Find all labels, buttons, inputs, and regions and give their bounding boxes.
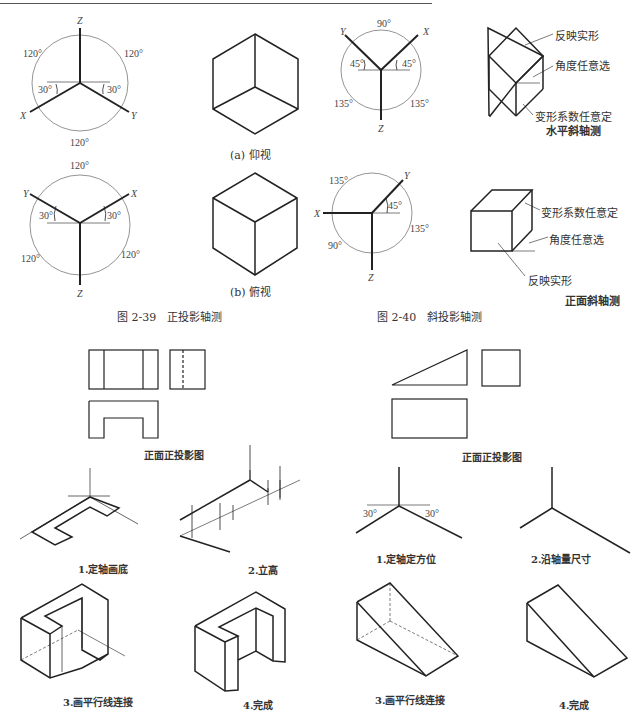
left-step4-caption: 4.完成 — [243, 697, 273, 712]
angle-label: 120° — [21, 253, 40, 264]
axis-y-label: Y — [131, 110, 137, 121]
isometric-axes-lower — [30, 175, 130, 285]
axis-y-label: Y — [23, 188, 29, 199]
angle-label: 120° — [70, 160, 89, 171]
right-step1-axes — [356, 467, 462, 538]
note-true-shape: 反映实形 — [555, 27, 599, 43]
angle-label: 90° — [328, 240, 342, 251]
left-step3-drawing — [21, 584, 125, 678]
angle-label: 45° — [350, 58, 364, 69]
angle-label: 90° — [377, 18, 391, 29]
left-step1-caption: 1.定轴画底 — [78, 561, 128, 576]
right-step4-caption: 4.完成 — [559, 697, 589, 712]
angle-label: 30° — [38, 84, 52, 95]
right-step2-caption: 2.沿轴量尺寸 — [531, 551, 591, 566]
angle-label: 135° — [334, 98, 353, 109]
right-step3-drawing — [357, 583, 458, 676]
axis-z-label: Z — [368, 272, 374, 283]
axis-x-label: X — [423, 26, 429, 37]
note-angle: 角度任意选 — [549, 231, 604, 247]
cube-bottom-view — [213, 34, 298, 134]
subcaption-b: (b) 俯视 — [230, 283, 271, 299]
right-step2-axes — [520, 467, 630, 553]
isometric-axes-upper — [30, 28, 129, 131]
left-projection-caption: 正面正投影图 — [144, 447, 204, 462]
angle-label: 120° — [23, 48, 42, 59]
cube-top-view — [213, 173, 297, 275]
oblique-axes-lower — [323, 173, 412, 270]
angle-label: 45° — [388, 200, 402, 211]
angle-label: 45° — [402, 58, 416, 69]
note-true-shape: 反映实形 — [528, 272, 572, 288]
left-orthographic-views — [89, 350, 205, 438]
left-step2-caption: 2.立高 — [248, 562, 278, 577]
angle-label: 30° — [39, 210, 53, 221]
note-angle: 角度任意选 — [555, 57, 610, 73]
angle-label: 30° — [107, 84, 121, 95]
axis-z-label: Z — [77, 15, 83, 26]
angle-label: 135° — [410, 223, 429, 234]
angle-label: 120° — [121, 249, 140, 260]
right-step4-drawing — [527, 585, 627, 677]
right-step3-caption: 3.画平行线连接 — [375, 692, 445, 707]
left-step3-caption: 3.画平行线连接 — [63, 694, 133, 709]
front-oblique-cube — [471, 190, 548, 276]
angle-label: 30° — [107, 210, 121, 221]
right-projection-caption: 正面正投影图 — [462, 449, 522, 464]
axis-y-label: Y — [340, 26, 346, 37]
oblique-axes-upper — [341, 30, 421, 120]
note-front-oblique: 正面斜轴测 — [565, 292, 620, 308]
left-step4-drawing — [195, 592, 285, 691]
figure-caption-2-39: 图 2-39 正投影轴测 — [117, 308, 222, 324]
axis-x-label: X — [314, 208, 320, 219]
axis-y-label: Y — [404, 170, 410, 181]
note-horizontal-oblique: 水平斜轴测 — [546, 122, 601, 138]
axis-x-label: X — [131, 188, 137, 199]
angle-label: 120° — [124, 48, 143, 59]
note-deformation: 变形系数任意定 — [541, 204, 618, 220]
right-step1-caption: 1.定轴定方位 — [376, 551, 436, 566]
left-step1-drawing — [20, 468, 138, 545]
figure-caption-2-40: 图 2-40 斜投影轴测 — [377, 308, 482, 324]
right-orthographic-views — [392, 350, 520, 438]
axis-x-label: X — [20, 110, 26, 121]
axis-z-label: Z — [77, 288, 83, 299]
angle-label: 120° — [70, 137, 89, 148]
angle-label: 30° — [425, 508, 439, 519]
angle-label: 135° — [329, 175, 348, 186]
angle-label: 135° — [410, 98, 429, 109]
subcaption-a: (a) 仰视 — [230, 146, 271, 162]
axis-z-label: Z — [378, 123, 384, 134]
horizontal-oblique-cube — [488, 28, 553, 116]
angle-label: 30° — [363, 508, 377, 519]
